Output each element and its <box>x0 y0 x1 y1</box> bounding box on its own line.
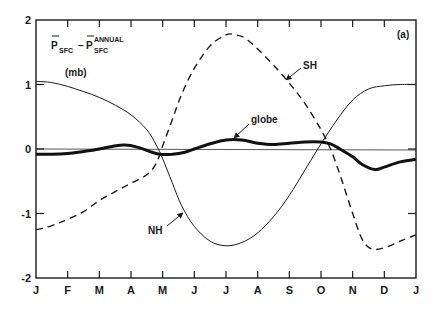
x-tick-label: A <box>127 284 135 296</box>
annotation-sh: SH <box>303 60 317 71</box>
x-tick-label: J <box>413 284 419 296</box>
series-sh-line <box>36 34 416 250</box>
x-axis-labels: JFMAMJJASONDJ <box>33 284 419 296</box>
y-axis-title: P SFC − P SFC ANNUAL (mb) <box>51 36 124 78</box>
seasonal-pressure-chart: JFMAMJJASONDJ -2-1012 P SFC − P SFC ANNU… <box>0 0 440 318</box>
x-tick-label: J <box>223 284 229 296</box>
annotation-globe: globe <box>251 114 278 125</box>
x-tick-label: J <box>191 284 197 296</box>
y-tick-label: -2 <box>21 272 31 284</box>
y-tick-label: 2 <box>25 14 31 26</box>
annotation-nh: NH <box>148 225 162 236</box>
x-tick-label: S <box>286 284 293 296</box>
arrow-icon <box>167 213 183 226</box>
x-tick-label: O <box>317 284 326 296</box>
arrow-icon <box>234 124 249 138</box>
ylabel-sup: ANNUAL <box>94 36 124 43</box>
panel-label: (a) <box>397 29 409 40</box>
x-tick-label: M <box>158 284 167 296</box>
ylabel-p2: P <box>86 40 93 51</box>
y-tick-label: 1 <box>25 79 31 91</box>
ylabel-units: (mb) <box>65 67 87 78</box>
ylabel-minus: − <box>78 40 84 51</box>
x-tick-label: N <box>349 284 357 296</box>
x-tick-label: M <box>95 284 104 296</box>
y-tick-label: -1 <box>21 208 31 220</box>
x-tick-label: D <box>380 284 388 296</box>
ylabel-p1: P <box>51 40 58 51</box>
y-axis-labels: -2-1012 <box>21 14 31 284</box>
arrow-icon <box>286 68 301 80</box>
x-tick-label: A <box>254 284 262 296</box>
x-tick-label: J <box>33 284 39 296</box>
ylabel-sub1: SFC <box>59 47 73 54</box>
series-globe-line <box>36 140 416 170</box>
ylabel-sub2: SFC <box>94 47 108 54</box>
y-tick-label: 0 <box>25 143 31 155</box>
x-tick-label: F <box>64 284 71 296</box>
